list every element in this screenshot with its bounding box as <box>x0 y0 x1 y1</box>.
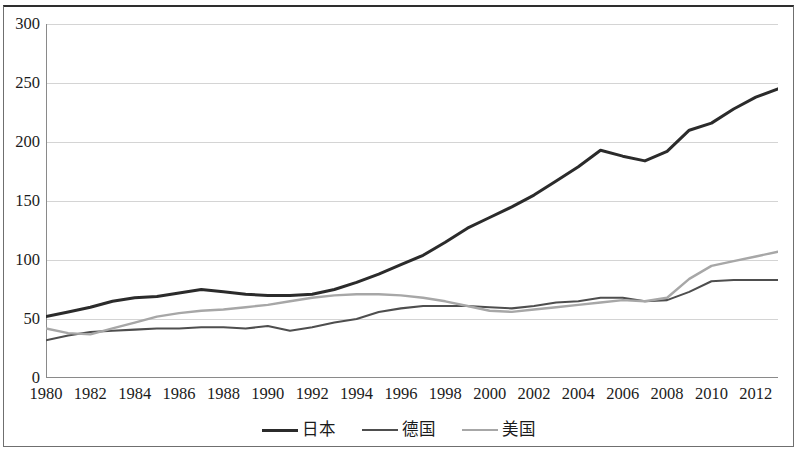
x-axis-label: 1988 <box>207 386 240 403</box>
x-axis-label: 1980 <box>30 386 63 403</box>
legend-label: 美国 <box>502 422 536 439</box>
y-axis-label: 250 <box>0 75 40 92</box>
chart-legend: 日本德国美国 <box>0 417 798 443</box>
x-axis-label: 1982 <box>74 386 107 403</box>
legend-swatch-line-icon <box>462 429 498 431</box>
y-axis: 050100150200250300 <box>0 0 40 450</box>
line-chart-figure: 050100150200250300 198019821984198619881… <box>0 0 798 450</box>
x-axis-label: 1998 <box>429 386 462 403</box>
x-axis-label: 1992 <box>296 386 329 403</box>
legend-swatch-line-icon <box>362 429 398 431</box>
x-axis-label: 2004 <box>562 386 595 403</box>
x-axis-label: 1996 <box>384 386 417 403</box>
x-axis-label: 1984 <box>118 386 151 403</box>
x-axis-label: 2008 <box>651 386 684 403</box>
y-axis-label: 150 <box>0 193 40 210</box>
gridlines <box>46 25 778 320</box>
data-series-group <box>46 89 778 340</box>
legend-item[interactable]: 日本 <box>262 422 336 439</box>
x-axis-label: 1986 <box>163 386 196 403</box>
y-axis-label: 300 <box>0 16 40 33</box>
legend-label: 日本 <box>302 422 336 439</box>
y-axis-label: 50 <box>0 311 40 328</box>
plot-svg <box>46 24 778 378</box>
x-axis-label: 2010 <box>695 386 728 403</box>
y-axis-label: 100 <box>0 252 40 269</box>
x-axis-label: 1990 <box>251 386 284 403</box>
legend-item[interactable]: 美国 <box>462 422 536 439</box>
x-axis-label: 2006 <box>606 386 639 403</box>
series-line-德国 <box>46 280 778 340</box>
y-axis-label: 200 <box>0 134 40 151</box>
legend-swatch-line-icon <box>262 429 298 432</box>
series-line-日本 <box>46 89 778 317</box>
legend-label: 德国 <box>402 422 436 439</box>
x-axis-label: 1994 <box>340 386 373 403</box>
x-axis-label: 2012 <box>739 386 772 403</box>
plot-area <box>46 24 778 378</box>
x-axis: 1980198219841986198819901992199419961998… <box>0 386 798 410</box>
x-axis-label: 2002 <box>518 386 551 403</box>
series-line-美国 <box>46 252 778 335</box>
legend-item[interactable]: 德国 <box>362 422 436 439</box>
x-axis-label: 2000 <box>473 386 506 403</box>
